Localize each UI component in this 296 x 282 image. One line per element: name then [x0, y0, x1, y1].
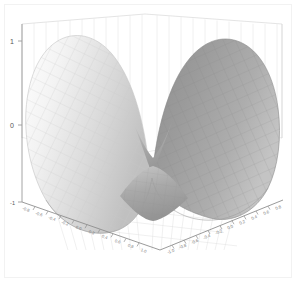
x-tick-label: -0.8 [22, 206, 31, 213]
z-tick-labels: 1 0 -1 [10, 38, 15, 206]
z-tick-label: 1 [10, 38, 14, 45]
y-tick-label: 0.6 [263, 209, 271, 216]
y-tick-label: -0.4 [203, 233, 212, 241]
y-tick-label: 0.4 [251, 214, 259, 221]
y-tick-label: 0.2 [239, 219, 247, 226]
y-tick-label: -0.2 [215, 228, 224, 236]
z-tick-label: -1 [10, 200, 15, 206]
surface-plot-canvas: 1 0 -1 -0.8 -0.6 -0.4 -0.2 0.0 0.2 0.4 0… [0, 0, 296, 282]
y-tick-label: 0.0 [227, 223, 235, 230]
z-tick-label: 0 [10, 122, 14, 129]
figure-root: 1 0 -1 -0.8 -0.6 -0.4 -0.2 0.0 0.2 0.4 0… [0, 0, 296, 282]
y-tick-label: 0.8 [275, 204, 283, 211]
x-tick-label: 1.0 [140, 247, 148, 254]
x-tick-label: -0.6 [35, 210, 44, 217]
z-axis [18, 24, 22, 202]
